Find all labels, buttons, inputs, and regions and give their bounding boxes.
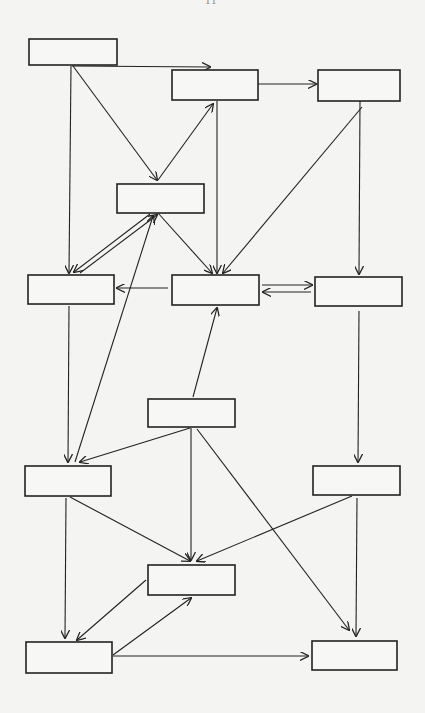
node-box-n [148, 565, 235, 595]
node-rect [313, 466, 400, 495]
edge-arrow-d-to-b [158, 104, 213, 180]
edge-arrow-e-to-d [80, 215, 157, 273]
edge-arrow-bl-to-n [113, 598, 191, 655]
node-box-h [25, 466, 111, 496]
flow-diagram [0, 0, 425, 713]
node-rect [315, 277, 402, 306]
edge-arrow-h-to-bl [65, 498, 66, 638]
node-rect [25, 466, 111, 496]
node-box-c [318, 70, 400, 101]
edge-arrow-r-to-br [356, 498, 357, 636]
diagram-canvas: 11 [0, 0, 425, 713]
node-rect [312, 641, 397, 670]
node-box-f [172, 275, 259, 305]
edge-arrow-a-to-e [69, 66, 71, 273]
node-box-a [29, 39, 117, 65]
node-rect [117, 184, 204, 213]
edge-arrow-c-to-g [359, 101, 360, 274]
node-rect [148, 565, 235, 595]
node-box-m [148, 399, 235, 427]
edge-arrow-e-to-h [68, 306, 69, 462]
edge-arrow-d-to-e [74, 214, 150, 272]
node-rect [318, 70, 400, 101]
node-box-br [312, 641, 397, 670]
node-box-d [117, 184, 204, 213]
edge-arrow-d-to-f [158, 213, 212, 273]
edge-arrow-r-to-n [197, 496, 352, 561]
node-box-bl [26, 642, 112, 673]
nodes-layer [25, 39, 402, 673]
node-rect [148, 399, 235, 427]
node-box-e [28, 275, 114, 304]
edge-arrow-a-to-d [73, 66, 157, 180]
edge-arrow-c-to-f [223, 107, 362, 273]
edge-arrow-h-to-d [75, 216, 153, 462]
edge-arrow-m-to-h [80, 428, 190, 462]
edge-arrow-g-to-r [358, 311, 359, 462]
node-rect [172, 70, 258, 100]
edge-arrow-a-to-b [72, 66, 210, 67]
edge-arrow-h-to-n [70, 497, 190, 561]
node-rect [172, 275, 259, 305]
edge-arrow-m-to-f [193, 308, 217, 397]
node-box-r [313, 466, 400, 495]
node-box-g [315, 277, 402, 306]
node-rect [28, 275, 114, 304]
edge-arrow-n-to-bl [77, 580, 146, 640]
node-rect [29, 39, 117, 65]
node-rect [26, 642, 112, 673]
node-box-b [172, 70, 258, 100]
